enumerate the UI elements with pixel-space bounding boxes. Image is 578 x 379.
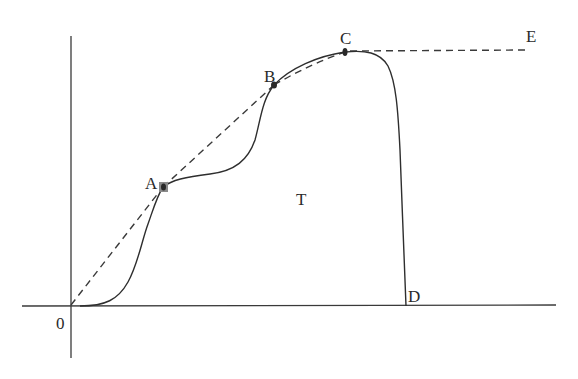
label-t: T (296, 190, 307, 209)
point-a-dot (161, 184, 166, 191)
dashed-line-b-c (274, 52, 345, 85)
label-d: D (408, 287, 420, 306)
diagram-canvas: 0 A B C E D T (0, 0, 578, 379)
dashed-line-0-a (71, 187, 163, 305)
label-b: B (264, 67, 275, 86)
label-e: E (526, 27, 536, 46)
label-c: C (340, 29, 351, 48)
dashed-line-a-b (163, 85, 274, 187)
label-origin: 0 (56, 314, 65, 333)
point-c-dot (343, 48, 348, 56)
label-a: A (145, 174, 158, 193)
x-axis (22, 305, 556, 306)
main-curve (80, 51, 406, 306)
dashed-line-c-e (350, 50, 526, 51)
